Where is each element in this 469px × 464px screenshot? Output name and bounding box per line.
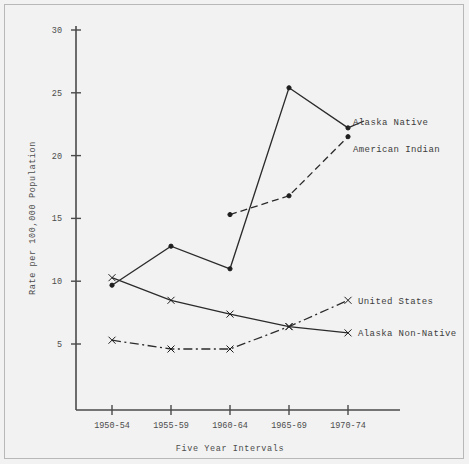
y-tick-label-5: 5 bbox=[57, 340, 62, 350]
series-alaska-native: Alaska Native bbox=[110, 86, 429, 288]
y-tick-label-30: 30 bbox=[52, 26, 62, 36]
y-tick-label-25: 25 bbox=[52, 89, 62, 99]
data-point-marker bbox=[169, 244, 173, 248]
series-alaska-native-line bbox=[112, 88, 348, 285]
y-axis-tick-labels: 30 25 20 15 10 5 bbox=[52, 26, 62, 350]
series-united-states: United States bbox=[109, 297, 434, 353]
data-point-marker bbox=[109, 274, 116, 281]
x-tick-label-4: 1970-74 bbox=[330, 421, 366, 431]
data-point-marker bbox=[287, 86, 291, 90]
data-point-marker bbox=[110, 283, 114, 287]
series-label-alaska-non-native: Alaska Non-Native bbox=[358, 329, 457, 339]
series-american-indian-line bbox=[230, 137, 348, 215]
series-alaska-non-native-line bbox=[112, 278, 348, 333]
data-point-marker bbox=[287, 194, 291, 198]
y-tick-label-15: 15 bbox=[52, 214, 62, 224]
x-tick-label-2: 1960-64 bbox=[212, 421, 248, 431]
series-alaska-non-native-markers bbox=[109, 274, 352, 336]
data-point-marker bbox=[346, 135, 350, 139]
series-united-states-line bbox=[112, 300, 348, 349]
data-point-marker bbox=[228, 267, 232, 271]
series-label-united-states: United States bbox=[358, 297, 433, 307]
x-tick-label-3: 1965-69 bbox=[271, 421, 307, 431]
y-axis-title: Rate per 100,000 Population bbox=[28, 141, 38, 295]
x-tick-label-1: 1955-59 bbox=[153, 421, 189, 431]
series-label-alaska-native: Alaska Native bbox=[353, 118, 428, 128]
y-tick-label-20: 20 bbox=[52, 152, 62, 162]
chart-page: 30 25 20 15 10 5 Rate per 100,000 Popula… bbox=[0, 0, 469, 464]
data-point-marker bbox=[345, 297, 352, 304]
x-axis-title: Five Year Intervals bbox=[176, 444, 284, 454]
series-label-american-indian: American Indian bbox=[353, 145, 440, 155]
series-united-states-markers bbox=[109, 297, 352, 353]
y-tick-label-10: 10 bbox=[52, 277, 62, 287]
line-chart: 30 25 20 15 10 5 Rate per 100,000 Popula… bbox=[0, 0, 469, 464]
x-tick-label-0: 1950-54 bbox=[94, 421, 130, 431]
x-axis-tick-labels: 1950-54 1955-59 1960-64 1965-69 1970-74 bbox=[94, 421, 366, 431]
data-point-marker bbox=[228, 213, 232, 217]
